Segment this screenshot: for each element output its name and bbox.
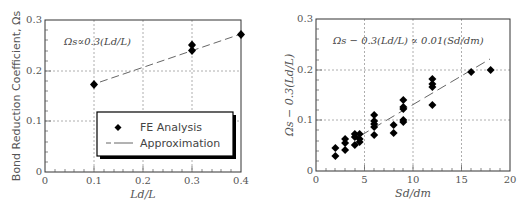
- svg-text:10: 10: [407, 174, 420, 185]
- svg-text:0: 0: [307, 165, 313, 176]
- right-x-tick-labels: 0 5 10 15 20: [313, 174, 517, 185]
- svg-text:0.3: 0.3: [297, 13, 313, 24]
- svg-text:5: 5: [361, 174, 367, 185]
- left-y-tick-labels: 0 0.1 0.2 0.3: [26, 14, 42, 177]
- svg-text:0.2: 0.2: [135, 175, 151, 186]
- right-plot: 0 5 10 15 20 0 0.1 0.2 0.3 Sd/dm Ωs − 0.…: [283, 13, 516, 200]
- svg-text:0: 0: [42, 175, 48, 186]
- svg-text:20: 20: [504, 174, 517, 185]
- svg-text:0.1: 0.1: [297, 114, 313, 125]
- svg-text:0.1: 0.1: [86, 175, 102, 186]
- svg-text:15: 15: [455, 174, 468, 185]
- left-equation: Ωs∝0.3(Ld/L): [63, 36, 131, 47]
- svg-text:0.2: 0.2: [297, 64, 313, 75]
- right-x-axis-label: Sd/dm: [395, 187, 431, 200]
- left-x-tick-labels: 0 0.1 0.2 0.3 0.4: [42, 175, 249, 186]
- left-y-axis-label: Bond Reduction Coefficient, Ωs: [10, 11, 23, 182]
- left-legend: FE Analysis Approximation: [97, 112, 236, 159]
- svg-text:0.3: 0.3: [26, 14, 42, 25]
- figure: 0 0.1 0.2 0.3 0.4 0 0.1 0.2 0.3 Ld/L Bon…: [0, 0, 529, 205]
- svg-text:0.3: 0.3: [184, 175, 200, 186]
- svg-text:0.2: 0.2: [26, 65, 42, 76]
- right-y-tick-labels: 0 0.1 0.2 0.3: [297, 13, 313, 176]
- svg-text:0: 0: [36, 166, 42, 177]
- svg-text:0.4: 0.4: [233, 175, 249, 186]
- legend-fe-label: FE Analysis: [140, 121, 202, 134]
- right-y-axis-label: Ωs − 0.3(Ld/L): [283, 54, 296, 137]
- svg-text:0: 0: [313, 174, 319, 185]
- left-plot: 0 0.1 0.2 0.3 0.4 0 0.1 0.2 0.3 Ld/L Bon…: [10, 11, 249, 201]
- left-x-axis-label: Ld/L: [129, 188, 155, 201]
- svg-text:0.1: 0.1: [26, 115, 42, 126]
- legend-approx-label: Approximation: [140, 137, 220, 150]
- right-equation: Ωs − 0.3(Ld/L) ∝ 0.01(Sd/dm): [332, 35, 484, 46]
